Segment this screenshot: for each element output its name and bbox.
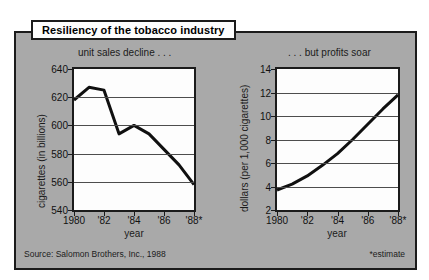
y-axis-tick-mark (271, 69, 275, 70)
source-note: Source: Salomon Brothers, Inc., 1988 (24, 249, 166, 259)
x-axis-tick-mark (194, 212, 195, 216)
y-axis-tick-mark (68, 154, 72, 155)
x-axis-tick-mark (164, 212, 165, 216)
gridline (277, 187, 398, 188)
y-axis-tick-mark (271, 187, 275, 188)
x-axis-tick-label: '84 (331, 215, 344, 226)
y-axis-tick-mark (68, 97, 72, 98)
x-axis-tick-label: 1980 (266, 215, 288, 226)
y-axis-tick-label: 540 (51, 205, 68, 216)
gridline (74, 154, 194, 155)
x-axis-tick-label: '86 (157, 215, 170, 226)
y-axis-tick-label: 620 (51, 92, 68, 103)
y-axis-tick-mark (271, 163, 275, 164)
x-axis-title-profits: year (327, 228, 346, 239)
x-axis-tick-label: '82 (97, 215, 110, 226)
y-axis-title-unit-sales: cigarettes (in billions) (36, 114, 47, 208)
data-series-line (277, 95, 398, 190)
x-axis-tick-label: '84 (127, 215, 140, 226)
y-axis-tick-mark (68, 69, 72, 70)
y-axis-tick-mark (271, 116, 275, 117)
x-axis-tick-mark (104, 212, 105, 216)
y-axis-tick-label: 14 (260, 64, 271, 75)
x-axis-tick-label: '88* (390, 215, 407, 226)
y-axis-tick-label: 560 (51, 176, 68, 187)
x-axis-tick-mark (368, 212, 369, 216)
y-axis-tick-mark (68, 182, 72, 183)
chart-subtitle-right: . . . but profits soar (288, 47, 371, 58)
y-axis-tick-label: 640 (51, 64, 68, 75)
y-axis-tick-label: 600 (51, 120, 68, 131)
x-axis-title-unit-sales: year (124, 228, 143, 239)
series-line-unit-sales (74, 69, 194, 210)
x-axis-tick-mark (74, 212, 75, 216)
y-axis-tick-mark (68, 125, 72, 126)
y-axis-tick-mark (271, 210, 275, 211)
page-title: Resiliency of the tobacco industry (42, 24, 225, 36)
plot-area-unit-sales (72, 67, 196, 212)
x-axis-tick-label: 1980 (63, 215, 85, 226)
estimate-note: *estimate (370, 249, 405, 259)
gridline (277, 163, 398, 164)
x-axis-tick-mark (338, 212, 339, 216)
y-axis-tick-mark (271, 93, 275, 94)
y-axis-title-profits: dollars (per 1,000 cigarettes) (239, 85, 250, 212)
x-axis-tick-label: '82 (301, 215, 314, 226)
plot-area-profits (275, 67, 400, 212)
gridline (277, 140, 398, 141)
x-axis-tick-mark (398, 212, 399, 216)
tobacco-industry-figure: Resiliency of the tobacco industry unit … (0, 0, 429, 280)
x-axis-tick-label: '88* (186, 215, 203, 226)
y-axis-tick-label: 12 (260, 87, 271, 98)
chart-subtitle-left: unit sales decline . . . (78, 47, 171, 58)
x-axis-tick-mark (307, 212, 308, 216)
y-axis-tick-mark (271, 140, 275, 141)
gridline (277, 93, 398, 94)
figure-title-box: Resiliency of the tobacco industry (31, 20, 236, 40)
gridline (74, 125, 194, 126)
x-axis-tick-label: '86 (361, 215, 374, 226)
gridline (74, 97, 194, 98)
gridline (74, 182, 194, 183)
x-axis-tick-mark (277, 212, 278, 216)
y-axis-tick-label: 580 (51, 148, 68, 159)
y-axis-tick-mark (68, 210, 72, 211)
gridline (277, 116, 398, 117)
data-series-line (74, 87, 194, 184)
y-axis-tick-label: 10 (260, 111, 271, 122)
x-axis-tick-mark (134, 212, 135, 216)
